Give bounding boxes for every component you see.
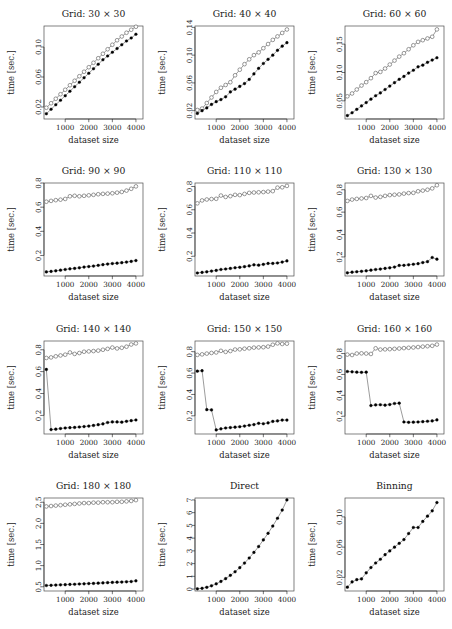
y-axis-label: time [sec.] (6, 207, 16, 252)
y-axis-label: time [sec.] (157, 207, 167, 252)
data-point-filled (97, 423, 100, 426)
x-axis-label: dataset size (219, 607, 269, 617)
data-point-open (68, 350, 72, 354)
x-tick-label: 4000 (277, 123, 296, 132)
data-point-open (87, 65, 91, 69)
y-tick-label: 0.6 (184, 204, 193, 216)
x-tick-label: 1000 (207, 123, 226, 132)
data-point-open (426, 188, 430, 192)
y-tick-label: 0.8 (34, 343, 43, 355)
data-point-filled (252, 264, 255, 267)
data-point-open (384, 194, 388, 198)
data-point-filled (54, 583, 57, 586)
x-tick-label: 1000 (357, 437, 376, 446)
data-point-open (398, 346, 402, 350)
data-point-filled (356, 108, 359, 111)
data-point-open (266, 344, 270, 348)
y-axis-label: time [sec.] (307, 50, 317, 95)
y-tick-label: 0.10 (34, 39, 43, 55)
data-point-filled (125, 40, 128, 43)
data-point-open (82, 501, 86, 505)
data-point-open (45, 106, 49, 110)
data-point-filled (389, 403, 392, 406)
data-point-filled (87, 265, 90, 268)
data-point-open (59, 353, 63, 357)
data-point-filled (243, 424, 246, 427)
data-point-filled (233, 88, 236, 91)
data-point-open (360, 351, 364, 355)
data-point-open (261, 190, 265, 194)
data-point-filled (417, 526, 420, 529)
data-point-filled (135, 259, 138, 262)
data-point-open (393, 193, 397, 197)
data-point-filled (276, 419, 279, 422)
panel-title: Grid: 60 × 60 (363, 8, 427, 19)
x-tick-label: 4000 (277, 437, 296, 446)
data-point-filled (116, 420, 119, 423)
data-point-open (228, 349, 232, 353)
data-point-filled (412, 263, 415, 266)
data-point-filled (276, 517, 279, 520)
data-point-open (242, 62, 246, 66)
y-tick-label: 0.6 (184, 366, 193, 378)
data-point-filled (436, 418, 439, 421)
y-tick-label: 0.15 (335, 36, 344, 52)
data-point-filled (238, 85, 241, 88)
data-point-open (388, 194, 392, 198)
data-point-open (228, 80, 232, 84)
data-point-filled (257, 545, 260, 548)
x-axis-label: dataset size (370, 607, 420, 617)
data-point-open (134, 498, 138, 502)
data-point-open (214, 350, 218, 354)
data-point-filled (417, 65, 420, 68)
data-point-filled (97, 264, 100, 267)
data-point-filled (215, 428, 218, 431)
data-point-filled (248, 265, 251, 268)
data-point-open (73, 79, 77, 83)
x-tick-label: 3000 (103, 437, 122, 446)
y-tick-label: 0.4 (34, 225, 43, 237)
x-tick-label: 1000 (357, 280, 376, 289)
data-point-filled (45, 584, 48, 587)
data-point-filled (403, 538, 406, 541)
data-point-open (129, 187, 133, 191)
data-point-open (266, 190, 270, 194)
data-point-open (252, 191, 256, 195)
data-point-open (393, 59, 397, 63)
data-point-open (228, 195, 232, 199)
data-point-filled (417, 263, 420, 266)
data-point-filled (97, 63, 100, 66)
data-point-filled (69, 268, 72, 271)
data-point-filled (285, 498, 288, 501)
data-point-filled (389, 549, 392, 552)
x-axis-label: dataset size (68, 607, 118, 617)
data-point-filled (257, 421, 260, 424)
data-point-filled (200, 109, 203, 112)
data-point-filled (257, 264, 260, 267)
data-point-filled (346, 370, 349, 373)
data-point-filled (412, 420, 415, 423)
data-point-filled (281, 45, 284, 48)
data-point-open (54, 97, 58, 101)
data-point-filled (375, 94, 378, 97)
data-point-open (421, 344, 425, 348)
x-tick-label: 4000 (127, 437, 146, 446)
x-axis-label: dataset size (219, 292, 269, 302)
data-point-open (402, 192, 406, 196)
data-point-filled (431, 59, 434, 62)
data-point-open (195, 108, 199, 112)
data-point-open (125, 344, 129, 348)
data-point-filled (210, 408, 213, 411)
data-point-filled (69, 90, 72, 93)
data-point-open (247, 346, 251, 350)
x-tick-label: 3000 (405, 437, 424, 446)
data-point-open (68, 83, 72, 87)
data-point-open (275, 341, 279, 345)
data-point-filled (346, 272, 349, 275)
data-point-filled (92, 424, 95, 427)
x-tick-label: 1000 (207, 437, 226, 446)
x-tick-label: 1000 (207, 595, 226, 604)
data-point-filled (102, 422, 105, 425)
data-point-open (417, 40, 421, 44)
y-tick-label: 7 (184, 497, 193, 502)
